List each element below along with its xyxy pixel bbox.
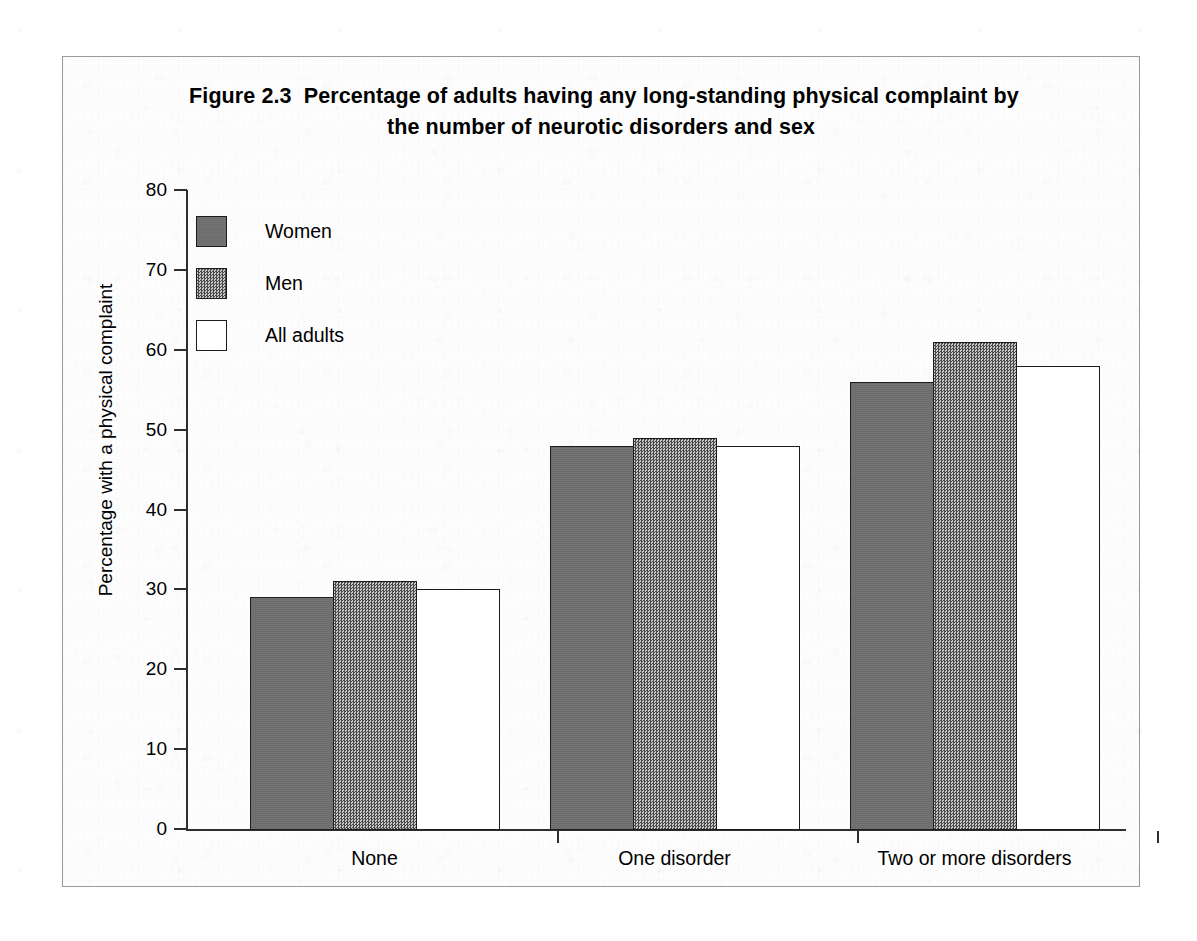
bar-men-two-or-more-disorders xyxy=(933,342,1017,830)
bar-all-adults-two-or-more-disorders xyxy=(1016,366,1100,830)
y-axis-tick-label-wrap: 70 xyxy=(63,260,167,279)
y-axis-tick-50 xyxy=(174,429,187,431)
y-axis-tick-label-50: 50 xyxy=(67,420,167,439)
y-axis-tick-label-80: 80 xyxy=(67,180,167,199)
y-axis-tick-0 xyxy=(174,828,187,830)
y-axis-tick-label-30: 30 xyxy=(67,579,167,598)
legend-label-all-adults: All adults xyxy=(265,324,344,347)
x-axis-label-two-or-more-disorders: Two or more disorders xyxy=(790,847,1159,870)
legend-item-all-adults: All adults xyxy=(196,309,344,361)
bar-men-one-disorder xyxy=(633,438,717,830)
y-axis-tick-label-wrap: 50 xyxy=(63,420,167,439)
y-axis-tick-label-70: 70 xyxy=(67,260,167,279)
y-axis-tick-label-40: 40 xyxy=(67,500,167,519)
y-axis-tick-label-wrap: 80 xyxy=(63,180,167,199)
grey-dither-swatch xyxy=(196,268,227,299)
legend-item-men: Men xyxy=(196,257,344,309)
bar-all-adults-one-disorder xyxy=(716,446,800,830)
y-axis-tick-label-10: 10 xyxy=(67,739,167,758)
y-axis-tick-label-0: 0 xyxy=(67,819,167,838)
figure-title: Figure 2.3 Percentage of adults having a… xyxy=(63,81,1139,143)
y-axis-tick-70 xyxy=(174,269,187,271)
bar-women-none xyxy=(250,597,334,830)
white-swatch xyxy=(196,320,227,351)
y-axis-tick-80 xyxy=(174,189,187,191)
y-axis-tick-label-wrap: 60 xyxy=(63,340,167,359)
chart-legend: WomenMenAll adults xyxy=(196,205,344,361)
legend-label-women: Women xyxy=(265,220,332,243)
y-axis-tick-40 xyxy=(174,509,187,511)
figure-title-line-1: Figure 2.3 Percentage of adults having a… xyxy=(63,81,1139,112)
y-axis-line xyxy=(186,190,188,831)
y-axis-tick-label-wrap: 10 xyxy=(63,739,167,758)
bar-women-two-or-more-disorders xyxy=(850,382,934,830)
legend-label-men: Men xyxy=(265,272,303,295)
y-axis-tick-label-wrap: 20 xyxy=(63,659,167,678)
y-axis-tick-label-wrap: 40 xyxy=(63,500,167,519)
y-axis-title: Percentage with a physical complaint xyxy=(95,210,117,670)
legend-item-women: Women xyxy=(196,205,344,257)
y-axis-tick-label-20: 20 xyxy=(67,659,167,678)
y-axis-tick-20 xyxy=(174,668,187,670)
figure-frame: Figure 2.3 Percentage of adults having a… xyxy=(62,56,1140,887)
x-axis-tick-1 xyxy=(557,831,559,843)
x-axis-tick-2 xyxy=(857,831,859,843)
y-axis-tick-30 xyxy=(174,588,187,590)
y-axis-tick-label-60: 60 xyxy=(67,340,167,359)
scanned-page: Figure 2.3 Percentage of adults having a… xyxy=(0,0,1197,941)
y-axis-tick-60 xyxy=(174,349,187,351)
bar-chart-plot-area: Percentage with a physical complaint 010… xyxy=(63,57,1141,888)
bar-women-one-disorder xyxy=(550,446,634,830)
y-axis-tick-10 xyxy=(174,748,187,750)
y-axis-tick-label-wrap: 30 xyxy=(63,579,167,598)
y-axis-tick-label-wrap: 0 xyxy=(63,819,167,838)
bar-all-adults-none xyxy=(416,589,500,830)
dark-grey-solid-swatch xyxy=(196,216,227,247)
figure-title-line-2: the number of neurotic disorders and sex xyxy=(63,112,1139,143)
x-axis-tick-3 xyxy=(1157,831,1159,843)
bar-men-none xyxy=(333,581,417,830)
